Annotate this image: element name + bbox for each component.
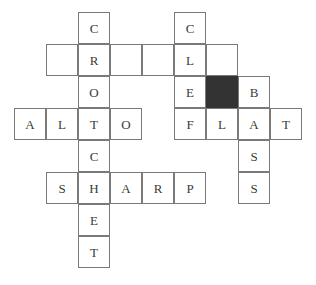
crossword-cell[interactable]: L [174,44,206,76]
crossword-cell[interactable] [142,44,174,76]
crossword-cell-blocked [206,76,238,108]
crossword-cell[interactable]: C [174,12,206,44]
crossword-grid: CCRLOEBALTOFLATCSSHARPSET [0,0,316,285]
crossword-cell[interactable] [46,44,78,76]
crossword-cell[interactable]: O [78,76,110,108]
crossword-cell[interactable]: T [78,108,110,140]
crossword-cell[interactable]: L [206,108,238,140]
crossword-cell[interactable] [110,44,142,76]
crossword-cell[interactable]: C [78,140,110,172]
crossword-cell[interactable]: S [46,172,78,204]
crossword-cell[interactable]: R [78,44,110,76]
crossword-cell[interactable]: A [110,172,142,204]
crossword-cell[interactable]: S [238,140,270,172]
crossword-cell[interactable]: H [78,172,110,204]
crossword-cell[interactable]: L [46,108,78,140]
crossword-cell[interactable]: A [238,108,270,140]
crossword-cell[interactable]: C [78,12,110,44]
crossword-cell[interactable]: P [174,172,206,204]
crossword-cell[interactable] [206,44,238,76]
crossword-cell[interactable]: E [174,76,206,108]
crossword-cell[interactable]: T [270,108,302,140]
crossword-cell[interactable]: T [78,236,110,268]
crossword-cell[interactable]: A [14,108,46,140]
crossword-cell[interactable]: R [142,172,174,204]
crossword-cell[interactable]: F [174,108,206,140]
crossword-cell[interactable]: E [78,204,110,236]
crossword-cell[interactable]: B [238,76,270,108]
crossword-cell[interactable]: O [110,108,142,140]
crossword-cell[interactable]: S [238,172,270,204]
